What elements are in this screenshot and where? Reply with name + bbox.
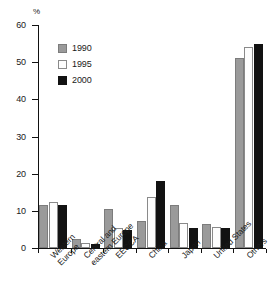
x-tick-mark <box>266 249 267 253</box>
x-tick-mark <box>38 249 39 253</box>
bar <box>49 202 58 248</box>
bar-group <box>235 25 263 248</box>
legend-item: 2000 <box>58 74 118 87</box>
y-tick-label: 10 <box>0 207 26 216</box>
y-tick-label: 40 <box>0 95 26 104</box>
chart-legend: 1990 1995 2000 <box>58 42 118 90</box>
white-swatch-icon <box>58 60 67 69</box>
legend-item: 1990 <box>58 42 118 55</box>
bar <box>170 205 179 248</box>
legend-item-label: 2000 <box>72 76 92 85</box>
legend-item-label: 1995 <box>72 60 92 69</box>
bar-group <box>137 25 165 248</box>
legend-item: 1995 <box>58 58 118 71</box>
black-swatch-icon <box>58 76 67 85</box>
bar <box>39 205 48 248</box>
x-tick-mark <box>168 249 169 253</box>
x-tick-mark <box>201 249 202 253</box>
bar-group <box>202 25 230 248</box>
bar <box>147 197 156 248</box>
bar <box>254 44 263 248</box>
bar <box>202 224 211 248</box>
bar-chart: % 0102030405060 Western EuropeCentral an… <box>0 0 274 304</box>
bar-group <box>170 25 198 248</box>
x-tick-mark <box>233 249 234 253</box>
bar <box>235 58 244 248</box>
legend-item-label: 1990 <box>72 44 92 53</box>
y-tick-label: 60 <box>0 21 26 30</box>
gray-swatch-icon <box>58 44 67 53</box>
y-tick-label: 20 <box>0 170 26 179</box>
y-axis-unit-label: % <box>33 7 40 17</box>
x-tick-mark <box>136 249 137 253</box>
bar <box>137 221 146 249</box>
y-tick-label: 30 <box>0 133 26 142</box>
y-tick-label: 50 <box>0 58 26 67</box>
y-tick-label: 0 <box>0 244 26 253</box>
